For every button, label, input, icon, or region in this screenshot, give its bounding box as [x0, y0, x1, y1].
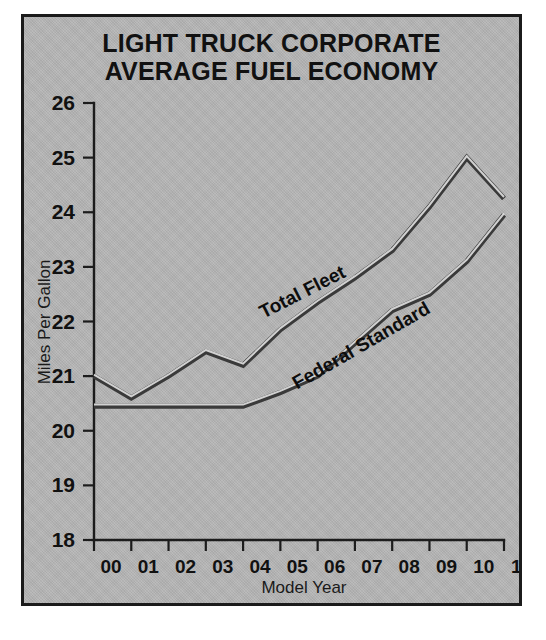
- x-tick-label-06: 06: [324, 556, 345, 577]
- chart-figure: LIGHT TRUCK CORPORATE AVERAGE FUEL ECONO…: [0, 0, 546, 640]
- x-axis-tick-labels: 000102030405060708091011: [100, 556, 519, 577]
- y-tick-label-22: 22: [52, 310, 75, 333]
- series-line-total-fleet: [94, 158, 504, 398]
- y-tick-label-21: 21: [52, 364, 76, 387]
- y-tick-label-25: 25: [52, 146, 76, 169]
- x-axis-title: Model Year: [261, 578, 346, 597]
- y-tick-label-24: 24: [52, 200, 76, 223]
- y-axis-title: Miles Per Gallon: [35, 260, 54, 385]
- chart-title-line-1: LIGHT TRUCK CORPORATE: [24, 29, 519, 57]
- x-tick-label-02: 02: [175, 556, 196, 577]
- x-tick-label-05: 05: [287, 556, 309, 577]
- y-tick-label-18: 18: [52, 528, 76, 551]
- x-tick-label-09: 09: [436, 556, 457, 577]
- x-tick-label-00: 00: [100, 556, 121, 577]
- y-tick-label-26: 26: [52, 91, 75, 114]
- x-tick-label-11: 11: [511, 556, 519, 577]
- x-tick-label-04: 04: [250, 556, 272, 577]
- chart-title-line-2: AVERAGE FUEL ECONOMY: [24, 57, 519, 85]
- line-chart-plot: 262524232221201918 000102030405060708091…: [24, 17, 519, 603]
- x-tick-label-01: 01: [138, 556, 160, 577]
- y-tick-label-23: 23: [52, 255, 75, 278]
- y-tick-label-19: 19: [52, 473, 75, 496]
- y-axis-tick-labels: 262524232221201918: [52, 91, 76, 551]
- x-axis-ticks: [94, 540, 504, 551]
- y-tick-label-20: 20: [52, 419, 75, 442]
- chart-panel: LIGHT TRUCK CORPORATE AVERAGE FUEL ECONO…: [21, 14, 522, 606]
- series-label-federal-standard: Federal Standard: [289, 297, 434, 393]
- x-tick-label-07: 07: [361, 556, 382, 577]
- y-axis-ticks: [83, 103, 94, 540]
- x-tick-label-10: 10: [473, 556, 494, 577]
- x-tick-label-08: 08: [399, 556, 420, 577]
- x-tick-label-03: 03: [212, 556, 233, 577]
- chart-title: LIGHT TRUCK CORPORATE AVERAGE FUEL ECONO…: [24, 29, 519, 85]
